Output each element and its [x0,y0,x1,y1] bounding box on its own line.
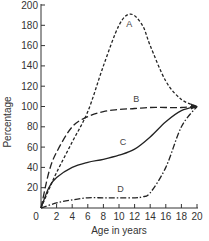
y-tick-label: 40 [27,162,39,173]
x-tick-label: 16 [160,211,172,222]
x-axis-label: Age in years [91,225,147,236]
y-tick-label: 20 [27,182,39,193]
x-tick-label: 12 [129,211,141,222]
x-tick-label: 2 [54,211,60,222]
x-tick-label: 10 [113,211,125,222]
x-axis: 02468101214161820 [33,204,203,222]
x-tick-label: 14 [145,211,157,222]
y-tick-label: 180 [21,20,38,31]
line-chart: 20406080100120140160180200 0246810121416… [0,0,209,241]
x-tick-label: 18 [176,211,188,222]
y-axis-label: Percentage [2,96,13,148]
curve-label-a: A [126,19,132,29]
curve-a [41,14,197,208]
curve-labels: ABCD [117,19,139,193]
y-tick-label: 200 [21,0,38,11]
y-tick-label: 160 [21,40,38,51]
curve-label-c: C [120,137,127,147]
x-tick-label: 0 [33,211,39,222]
y-tick-label: 60 [27,142,39,153]
y-tick-label: 120 [21,81,38,92]
y-axis: 20406080100120140160180200 [21,0,45,208]
y-tick-label: 140 [21,60,38,71]
x-tick-label: 20 [191,211,203,222]
curve-label-b: B [133,94,139,104]
x-tick-label: 6 [85,211,91,222]
x-tick-label: 8 [101,211,107,222]
y-tick-label: 80 [27,121,39,132]
y-tick-label: 100 [21,101,38,112]
x-tick-label: 4 [69,211,75,222]
curve-label-d: D [117,184,124,194]
curves [41,14,198,208]
